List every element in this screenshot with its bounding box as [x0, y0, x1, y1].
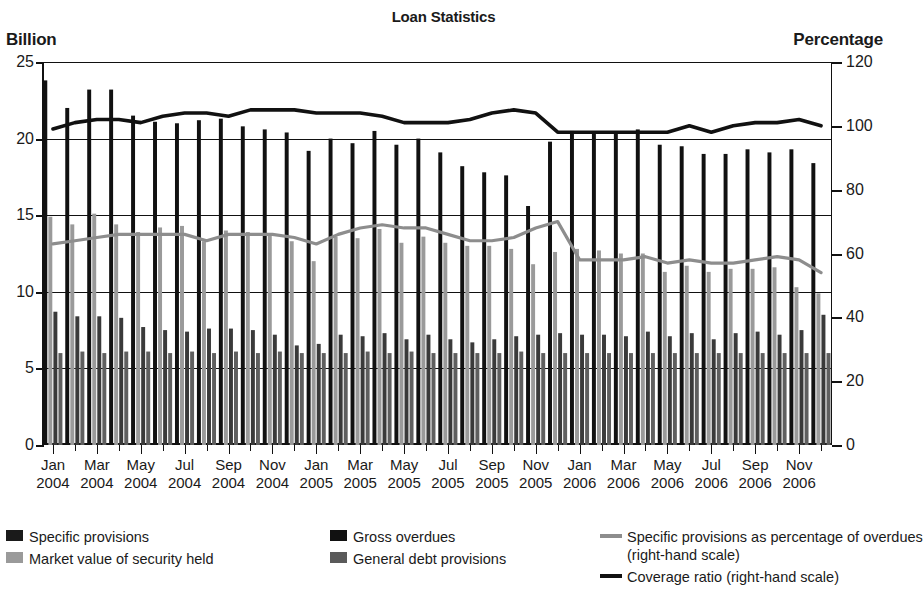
- x-tick-mark: [185, 445, 186, 454]
- x-tick-mark-minor: [426, 445, 427, 451]
- x-tick-mark-minor: [821, 445, 822, 451]
- x-tick-mark-minor: [75, 445, 76, 451]
- legend-line-icon: [600, 574, 622, 578]
- y-tick-label-left: 0: [2, 437, 34, 453]
- x-tick-mark: [229, 445, 230, 454]
- y-tick-mark-left: [36, 215, 44, 217]
- plot-area: [42, 62, 832, 445]
- legend-swatch-icon: [330, 530, 347, 541]
- x-tick-mark: [624, 445, 625, 454]
- y-tick-label-left: 15: [2, 207, 34, 223]
- left-axis-title: Billion: [6, 30, 57, 50]
- y-tick-mark-left: [36, 292, 44, 294]
- x-tick-year: 2006: [772, 474, 826, 492]
- right-axis-title: Percentage: [793, 30, 883, 50]
- x-tick-mark-minor: [645, 445, 646, 451]
- x-tick-mark-minor: [514, 445, 515, 451]
- x-tick-mark-minor: [294, 445, 295, 451]
- legend-label: General debt provisions: [353, 551, 506, 567]
- legend-item-general-debt-provisions[interactable]: General debt provisions: [330, 550, 506, 568]
- page-title: Loan Statistics: [0, 8, 887, 25]
- legend-swatch-icon: [6, 552, 23, 563]
- y-tick-label-right: 80: [846, 182, 864, 198]
- y-tick-label-right: 40: [846, 309, 864, 325]
- x-tick-mark-minor: [733, 445, 734, 451]
- x-tick-mark: [492, 445, 493, 454]
- legend-label: Specific provisions: [29, 529, 149, 545]
- y-tick-label-right: 120: [846, 54, 873, 70]
- x-tick-mark-minor: [207, 445, 208, 451]
- y-tick-mark-right: [832, 381, 842, 383]
- legend-item-gross-overdues[interactable]: Gross overdues: [330, 528, 455, 546]
- y-tick-mark-right: [832, 317, 842, 319]
- x-tick-mark: [448, 445, 449, 454]
- x-tick-mark-minor: [119, 445, 120, 451]
- x-axis: Jan2004Mar2004May2004Jul2004Sep2004Nov20…: [42, 445, 832, 515]
- x-tick-mark: [667, 445, 668, 454]
- x-tick-mark-minor: [558, 445, 559, 451]
- x-tick-mark-minor: [163, 445, 164, 451]
- legend-swatch-icon: [330, 552, 347, 563]
- x-tick-mark: [536, 445, 537, 454]
- x-tick-mark: [141, 445, 142, 454]
- legend-label: Specific provisions as percentage of ove…: [627, 529, 923, 545]
- x-tick-mark-minor: [602, 445, 603, 451]
- y-tick-mark-right: [832, 126, 842, 128]
- x-tick-mark: [316, 445, 317, 454]
- legend-item-specific-provisions[interactable]: Specific provisions: [6, 528, 149, 546]
- legend-line-icon: [600, 534, 622, 538]
- x-tick-mark-minor: [777, 445, 778, 451]
- legend-label: Coverage ratio (right-hand scale): [627, 569, 839, 585]
- x-tick-mark: [799, 445, 800, 454]
- y-tick-label-right: 100: [846, 118, 873, 134]
- x-tick-mark-minor: [689, 445, 690, 451]
- legend-swatch-icon: [6, 530, 23, 541]
- x-tick-mark: [755, 445, 756, 454]
- x-tick-mark: [404, 445, 405, 454]
- y-tick-mark-right: [832, 254, 842, 256]
- y-tick-label-left: 20: [2, 131, 34, 147]
- y-tick-label-right: 20: [846, 373, 864, 389]
- y-tick-mark-right: [832, 190, 842, 192]
- line-series: [53, 110, 821, 132]
- y-tick-label-left: 25: [2, 54, 34, 70]
- x-tick-mark: [272, 445, 273, 454]
- legend-label: Market value of security held: [29, 551, 214, 567]
- x-tick-label: Nov2006: [772, 456, 826, 492]
- y-tick-label-right: 0: [846, 437, 855, 453]
- y-tick-mark-right: [832, 62, 842, 64]
- y-tick-mark-right: [832, 445, 842, 447]
- y-tick-label-right: 60: [846, 246, 864, 262]
- y-tick-label-left: 10: [2, 284, 34, 300]
- lines-layer: [42, 62, 832, 445]
- legend-sublabel: (right-hand scale): [627, 546, 923, 564]
- x-tick-mark-minor: [470, 445, 471, 451]
- line-series: [53, 222, 821, 273]
- legend-label: Gross overdues: [353, 529, 455, 545]
- x-tick-mark: [360, 445, 361, 454]
- legend-item-coverage-ratio[interactable]: Coverage ratio (right-hand scale): [600, 568, 839, 586]
- y-tick-mark-left: [36, 368, 44, 370]
- y-tick-mark-left: [36, 139, 44, 141]
- x-tick-month: Nov: [772, 456, 826, 474]
- x-tick-mark: [97, 445, 98, 454]
- x-tick-mark: [711, 445, 712, 454]
- x-tick-mark: [580, 445, 581, 454]
- x-tick-mark-minor: [382, 445, 383, 451]
- y-tick-mark-left: [36, 62, 44, 64]
- x-tick-mark-minor: [338, 445, 339, 451]
- chart-legend: Specific provisionsMarket value of secur…: [0, 528, 887, 612]
- legend-item-market-value[interactable]: Market value of security held: [6, 550, 214, 568]
- x-tick-mark: [53, 445, 54, 454]
- legend-item-specific-pct-overdues[interactable]: Specific provisions as percentage of ove…: [600, 528, 923, 564]
- x-tick-mark-minor: [250, 445, 251, 451]
- y-tick-label-left: 5: [2, 360, 34, 376]
